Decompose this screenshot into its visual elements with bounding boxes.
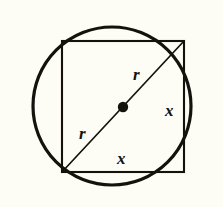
radius-label-lower: r — [79, 125, 86, 142]
geometry-diagram: r r x x — [0, 0, 223, 207]
side-label-right: x — [165, 102, 174, 119]
radius-label-upper: r — [133, 66, 140, 83]
diagram-canvas — [0, 0, 223, 207]
side-label-bottom: x — [117, 150, 126, 167]
center-point-dot — [118, 102, 128, 112]
